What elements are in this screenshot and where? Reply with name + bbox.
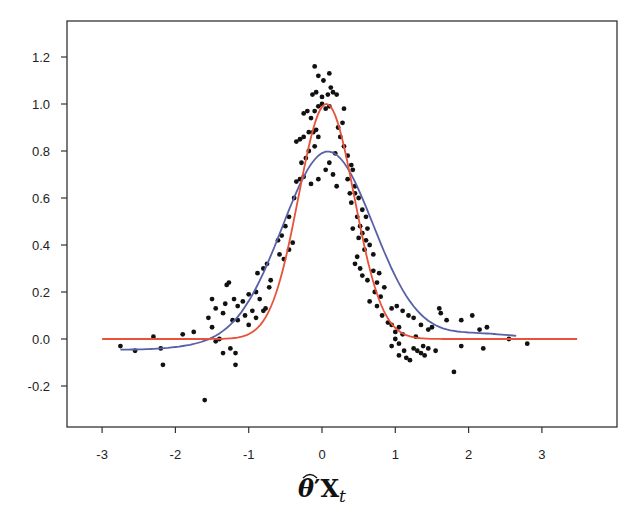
data-point: [334, 184, 339, 189]
data-point: [294, 139, 299, 144]
data-point: [365, 278, 370, 283]
y-tick-label: 0.4: [32, 238, 50, 253]
data-point: [421, 344, 426, 349]
data-point: [433, 348, 438, 353]
x-tick-label: 2: [465, 447, 472, 462]
data-point: [323, 167, 328, 172]
data-point: [411, 315, 416, 320]
data-point: [223, 301, 228, 306]
data-point: [444, 318, 449, 323]
data-point: [400, 308, 405, 313]
data-point: [452, 370, 457, 375]
data-point: [206, 315, 211, 320]
data-point: [202, 398, 207, 403]
data-point: [254, 315, 259, 320]
data-point: [316, 135, 321, 140]
data-point: [485, 325, 490, 330]
y-tick-label: -0.2: [28, 379, 50, 394]
data-point: [353, 261, 358, 266]
data-point: [422, 353, 427, 358]
data-point: [312, 144, 317, 149]
data-point: [364, 214, 369, 219]
data-point: [437, 306, 442, 311]
data-point: [438, 311, 443, 316]
data-point: [380, 313, 385, 318]
data-point: [327, 160, 332, 165]
data-point: [402, 348, 407, 353]
data-point: [345, 177, 350, 182]
data-point: [290, 240, 295, 245]
x-axis-label: θ′Xt: [298, 474, 346, 506]
data-point: [118, 344, 123, 349]
data-point: [309, 116, 314, 121]
data-point: [221, 311, 226, 316]
data-point: [277, 252, 282, 257]
y-tick-label: 0.0: [32, 332, 50, 347]
data-point: [257, 297, 262, 302]
data-point: [525, 341, 530, 346]
x-axis-ticks: -3-2-10123: [96, 427, 545, 462]
data-point: [331, 90, 336, 95]
data-point: [371, 252, 376, 257]
data-point: [246, 323, 251, 328]
x-tick-label: -3: [96, 447, 108, 462]
data-point: [233, 362, 238, 367]
data-point: [342, 106, 347, 111]
y-tick-label: 1.2: [32, 50, 50, 65]
data-point: [360, 207, 365, 212]
data-point: [243, 313, 248, 318]
data-point: [327, 71, 332, 76]
data-point: [367, 299, 372, 304]
data-point: [268, 278, 273, 283]
y-tick-label: 1.0: [32, 97, 50, 112]
y-tick-label: 0.8: [32, 144, 50, 159]
data-point: [228, 346, 233, 351]
data-point: [350, 167, 355, 172]
data-point: [389, 344, 394, 349]
data-point: [301, 135, 306, 140]
data-point: [161, 362, 166, 367]
data-point: [389, 306, 394, 311]
plot-frame: [67, 21, 617, 427]
data-point: [255, 271, 260, 276]
data-point: [213, 306, 218, 311]
data-point: [325, 92, 330, 97]
data-point: [314, 127, 319, 132]
data-point: [411, 346, 416, 351]
data-point: [470, 313, 475, 318]
data-point: [316, 177, 321, 182]
data-point: [233, 351, 238, 356]
data-point: [180, 332, 185, 337]
data-point: [309, 182, 314, 187]
data-point: [232, 297, 237, 302]
data-point: [397, 341, 402, 346]
y-axis-ticks: -0.20.00.20.40.60.81.01.2: [28, 50, 67, 394]
data-point: [299, 160, 304, 165]
data-point: [321, 78, 326, 83]
data-point: [349, 163, 354, 168]
data-point: [355, 254, 360, 259]
data-point: [356, 236, 361, 241]
data-point: [394, 304, 399, 309]
data-point: [312, 64, 317, 69]
data-point: [459, 344, 464, 349]
data-point: [358, 266, 363, 271]
data-point: [430, 325, 435, 330]
data-point: [375, 280, 380, 285]
data-point: [191, 330, 196, 335]
data-point: [331, 172, 336, 177]
data-point: [235, 304, 240, 309]
data-point: [408, 358, 413, 363]
data-point: [349, 200, 354, 205]
y-tick-label: 0.6: [32, 191, 50, 206]
data-point: [263, 306, 268, 311]
data-point: [375, 304, 380, 309]
data-point: [356, 196, 361, 201]
data-point: [365, 226, 370, 231]
data-point: [267, 285, 272, 290]
data-point: [316, 73, 321, 78]
data-point: [301, 111, 306, 116]
data-point: [426, 346, 431, 351]
x-tick-label: -2: [170, 447, 182, 462]
x-tick-label: 3: [538, 447, 545, 462]
